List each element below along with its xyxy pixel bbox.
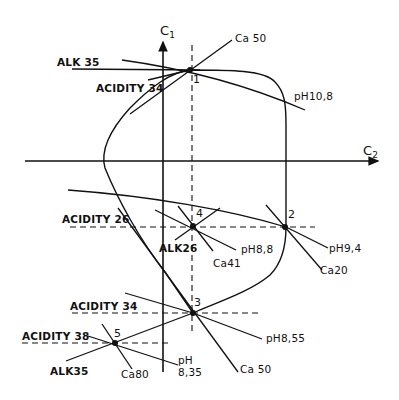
label-acidity26: ACIDITY 26	[62, 214, 129, 225]
point-2	[282, 224, 288, 230]
label-ph94: pH9,4	[329, 243, 361, 254]
label-ph835-line1: pH	[178, 355, 193, 366]
label-ca20: Ca20	[320, 265, 348, 276]
label-ph835-line2: 8,35	[178, 367, 202, 378]
label-ph88: pH8,8	[241, 244, 273, 255]
c1-label-text: C	[160, 23, 169, 38]
label-acidity34-top: ACIDITY 34	[96, 83, 163, 94]
label-ca41: Ca41	[213, 258, 241, 269]
point-4	[190, 223, 196, 229]
line-ca50-bottom	[118, 208, 238, 372]
label-ca50-top: Ca 50	[235, 33, 266, 44]
label-alk35-bottom: ALK35	[50, 366, 89, 377]
label-ph855: pH8,55	[266, 333, 305, 344]
label-acidity38: ACIDITY 38	[22, 331, 89, 342]
point-5	[112, 340, 118, 346]
label-ph108: pH10,8	[294, 91, 333, 102]
c2-axis-label: C2	[363, 144, 378, 160]
line-ph855	[193, 313, 262, 339]
boundary-curve	[104, 70, 286, 313]
point-1-label: 1	[193, 74, 200, 85]
point-5-label: 5	[114, 328, 121, 339]
label-ca50-bottom: Ca 50	[240, 364, 271, 375]
line-ph94	[286, 227, 328, 248]
c2-subscript: 2	[372, 150, 378, 160]
c2-label-text: C	[363, 143, 372, 158]
c1-subscript: 1	[169, 30, 175, 40]
point-4-label: 4	[196, 208, 203, 219]
line-ca50-top	[130, 40, 232, 114]
label-alk26: ALK26	[159, 243, 198, 254]
c1-axis-label: C1	[160, 24, 175, 40]
label-ca80: Ca80	[121, 369, 149, 380]
point-3-label: 3	[194, 297, 201, 308]
line-acidity38	[88, 336, 178, 365]
label-alk35-top: ALK 35	[57, 57, 99, 68]
diagram-canvas: C1 C2 1 2 3 4 5 ALK 35 ACIDITY 34 Ca 50 …	[0, 0, 399, 400]
label-acidity34-mid: ACIDITY 34	[70, 301, 137, 312]
point-3	[190, 310, 196, 316]
point-2-label: 2	[288, 209, 295, 220]
